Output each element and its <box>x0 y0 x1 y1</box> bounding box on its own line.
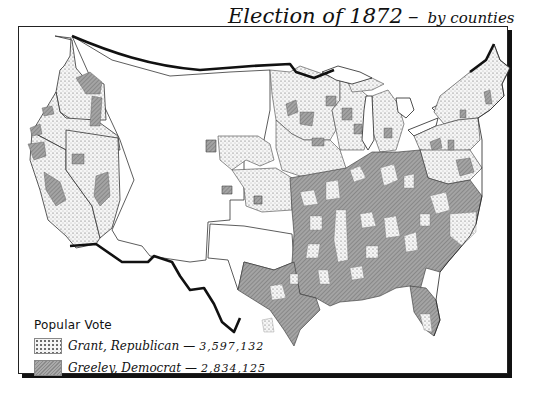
title-subtitle: by counties <box>427 9 514 27</box>
map-title: Election of 1872 – by counties <box>228 4 514 28</box>
legend-item-greeley: Greeley, Democrat — 2,834,125 <box>34 360 266 376</box>
legend-label: Greeley, Democrat <box>68 361 181 375</box>
legend-heading: Popular Vote <box>34 318 266 332</box>
hatched-pattern-swatch-icon <box>34 360 62 376</box>
legend-vote-count: 2,834,125 <box>201 362 266 375</box>
legend-item-grant: Grant, Republican — 3,597,132 <box>34 338 266 354</box>
title-main: Election of 1872 <box>228 4 403 28</box>
legend-dash: — <box>183 339 195 353</box>
legend-label: Grant, Republican <box>68 339 179 353</box>
title-separator: – <box>408 4 419 28</box>
legend: Popular Vote Grant, Republican — 3,597,1… <box>34 318 266 382</box>
dotted-pattern-swatch-icon <box>34 338 62 354</box>
legend-vote-count: 3,597,132 <box>199 340 264 353</box>
legend-dash: — <box>185 361 197 375</box>
